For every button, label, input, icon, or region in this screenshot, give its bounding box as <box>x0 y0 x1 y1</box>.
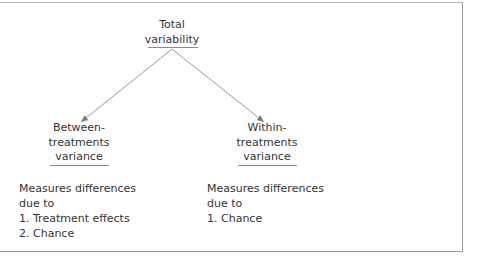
within-underline <box>238 165 297 166</box>
root-node-total-variability: Total variability <box>132 18 212 47</box>
within-desc-line-2: due to <box>207 196 324 211</box>
between-description: Measures differences due to 1. Treatment… <box>19 181 136 241</box>
within-desc-line-3: 1. Chance <box>207 211 324 226</box>
between-desc-line-2: due to <box>19 196 136 211</box>
within-line-3: variance <box>227 150 307 165</box>
between-underline <box>50 165 109 166</box>
within-description: Measures differences due to 1. Chance <box>207 181 324 226</box>
between-desc-line-1: Measures differences <box>19 181 136 196</box>
arrow-to-within <box>172 49 264 122</box>
between-line-1: Between- <box>39 121 119 136</box>
within-line-2: treatments <box>227 136 307 151</box>
between-desc-line-3: 1. Treatment effects <box>19 211 136 226</box>
between-line-2: treatments <box>39 136 119 151</box>
root-line-1: Total <box>132 18 212 33</box>
within-line-1: Within- <box>227 121 307 136</box>
node-between-treatments-variance: Between- treatments variance <box>39 121 119 165</box>
between-desc-line-4: 2. Chance <box>19 226 136 241</box>
node-within-treatments-variance: Within- treatments variance <box>227 121 307 165</box>
root-underline <box>148 47 198 48</box>
arrow-to-between <box>81 49 172 122</box>
between-line-3: variance <box>39 150 119 165</box>
root-line-2: variability <box>132 33 212 48</box>
within-desc-line-1: Measures differences <box>207 181 324 196</box>
